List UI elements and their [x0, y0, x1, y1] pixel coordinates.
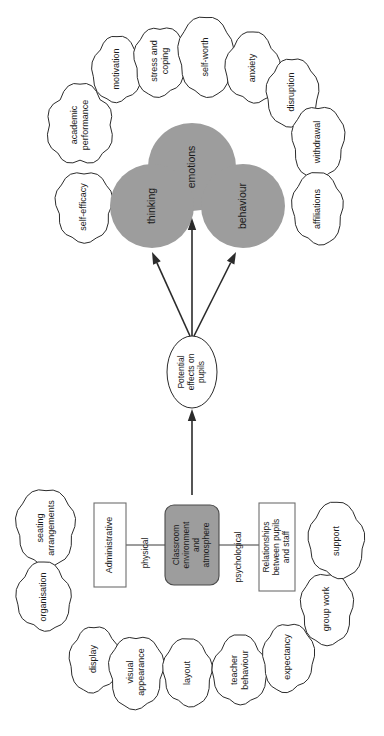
cloud-motivation-label: motivation [111, 48, 121, 89]
cloud-affiliations-line-0: affiliations [312, 189, 322, 229]
mediator-node: Potentialeffects onpupils [167, 336, 217, 408]
node-thinking-label: thinking [145, 188, 157, 224]
cloud-display-label: display [88, 644, 98, 673]
cloud-expectancy-label: expectancy [282, 634, 292, 680]
cloud-seating-arrangements-line-0: seating [35, 513, 45, 542]
cloud-withdrawal-label: withdrawal [312, 121, 322, 165]
cloud-organisation-label: organisation [38, 572, 48, 621]
cloud-self-worth: self-worth [178, 17, 234, 98]
cloud-academic-performance-line-1: performance [80, 100, 90, 151]
cloud-affiliations: affiliations [291, 172, 343, 245]
relationships-box-line-1: between pupils [271, 519, 281, 576]
arrow-to-thinking [152, 252, 190, 336]
cloud-self-worth-label: self-worth [200, 37, 210, 76]
arrow-classroom-to-mediator [188, 409, 196, 495]
arrow-classroom-to-mediator-head [188, 409, 196, 421]
relationships-box-line-2: and staff [281, 530, 291, 563]
branch-psychological-label: psychological [233, 531, 243, 582]
core-group: Classroomenvironmentandatmospherephysica… [94, 503, 295, 591]
cloud-academic-performance-line-0: academic [69, 105, 79, 144]
cloud-affiliations-label: affiliations [312, 189, 322, 229]
cloud-motivation-line-0: motivation [111, 48, 121, 89]
administrative-box-line-0: Administrative [104, 517, 114, 574]
arrow-to-behaviour-shaft [194, 263, 231, 336]
cloud-disruption-line-0: disruption [286, 72, 296, 111]
mediator-line-0: Potential [176, 355, 186, 388]
cloud-visual-appearance-line-0: visual [125, 660, 135, 683]
cloud-teacher-behaviour: teacherbehaviour [212, 635, 268, 705]
cloud-group-work-line-0: group work [321, 586, 331, 631]
node-emotions-line-0: emotions [185, 146, 197, 189]
cloud-group-work: group work [300, 574, 353, 645]
arrow-to-behaviour-head [227, 252, 236, 265]
diagram-canvas: self-efficacyacademicperformancemotivati… [0, 0, 384, 736]
cloud-teacher-behaviour-label: teacherbehaviour [229, 650, 250, 690]
cloud-visual-appearance-line-1: appearance [136, 648, 146, 696]
cloud-expectancy: expectancy [262, 624, 314, 693]
cloud-display-line-0: display [88, 644, 98, 673]
cloud-organisation-line-0: organisation [38, 572, 48, 621]
cloud-stress-and-coping-line-1: coping [160, 48, 170, 75]
cloud-self-efficacy-label: self-efficacy [78, 183, 88, 231]
arrow-to-emotions [188, 218, 196, 336]
mediator-line-1: effects on [186, 353, 196, 390]
center-box-line-1: environment [181, 521, 191, 568]
center-box-line-2: and [191, 538, 201, 552]
administrative-box-label: Administrative [104, 517, 114, 574]
cloud-group-work-label: group work [321, 586, 331, 631]
cloud-organisation: organisation [16, 562, 72, 632]
branch-psychological-line-0: psychological [233, 531, 243, 582]
cloud-teacher-behaviour-line-1: behaviour [240, 650, 250, 690]
cloud-academic-performance-label: academicperformance [69, 100, 90, 151]
cloud-visual-appearance: visualappearance [108, 637, 164, 710]
mediator-line-2: pupils [196, 361, 206, 383]
cloud-anxiety-label: anxiety [247, 53, 257, 82]
cloud-support: support [308, 502, 365, 579]
cloud-self-efficacy: self-efficacy [55, 173, 113, 244]
cloud-stress-and-coping-line-0: stress and [149, 40, 159, 82]
cloud-self-efficacy-line-0: self-efficacy [78, 183, 88, 231]
center-box-line-0: Classroom [171, 525, 181, 566]
cloud-layout-label: layout [182, 661, 192, 686]
cloud-teacher-behaviour-line-0: teacher [229, 655, 239, 685]
cloud-anxiety-line-0: anxiety [247, 53, 257, 82]
branch-physical-label: physical [140, 538, 150, 569]
cloud-support-line-0: support [331, 525, 341, 556]
cloud-seating-arrangements: seatingarrangements [15, 490, 75, 567]
cloud-expectancy-line-0: expectancy [282, 634, 292, 680]
center-box-line-3: atmosphere [201, 522, 211, 567]
cloud-disruption-label: disruption [286, 72, 296, 111]
concept-map-svg: self-efficacyacademicperformancemotivati… [0, 0, 384, 736]
cloud-layout-line-0: layout [182, 661, 192, 686]
cloud-self-worth-line-0: self-worth [200, 37, 210, 76]
cloud-support-label: support [331, 525, 341, 556]
arrow-to-thinking-shaft [157, 263, 190, 336]
arrow-to-thinking-head [152, 252, 161, 265]
node-emotions-label: emotions [185, 146, 197, 189]
branch-physical-line-0: physical [140, 538, 150, 569]
cloud-withdrawal: withdrawal [292, 107, 345, 179]
outcome-circles-group: emotionsthinkingbehaviour [110, 123, 285, 248]
cloud-seating-arrangements-line-1: arrangements [46, 500, 56, 556]
node-thinking-line-0: thinking [145, 188, 157, 224]
node-behaviour-line-0: behaviour [236, 182, 248, 229]
cloud-withdrawal-line-0: withdrawal [312, 121, 322, 165]
relationships-box-line-0: Relationships [261, 521, 271, 572]
cloud-layout: layout [163, 639, 213, 708]
arrow-to-behaviour [194, 252, 236, 336]
node-behaviour-label: behaviour [236, 182, 248, 229]
